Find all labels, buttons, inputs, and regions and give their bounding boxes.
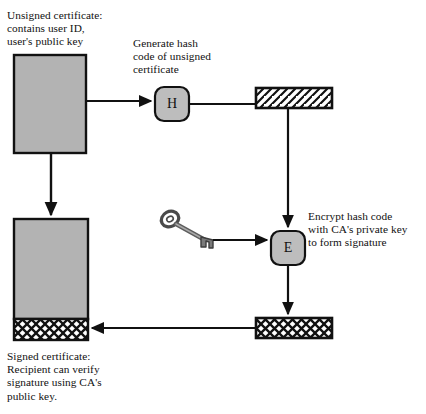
signed-certificate-caption: Signed certificate: Recipient can verify… xyxy=(7,350,102,403)
signature-bar xyxy=(256,318,332,338)
hash-function-label: H xyxy=(155,87,189,121)
hash-code-bar xyxy=(256,88,332,108)
encrypt-function-label: E xyxy=(271,231,305,265)
certificate-signing-diagram: H E Unsigned certificate: contains user … xyxy=(0,0,426,414)
generate-hash-caption: Generate hash code of unsigned certifica… xyxy=(133,37,211,77)
signed-certificate-box xyxy=(14,219,88,340)
unsigned-certificate-box xyxy=(14,55,86,153)
encrypt-hash-caption: Encrypt hash code with CA's private key … xyxy=(308,210,407,250)
key-icon xyxy=(159,208,213,248)
unsigned-certificate-caption: Unsigned certificate: contains user ID, … xyxy=(7,9,102,49)
